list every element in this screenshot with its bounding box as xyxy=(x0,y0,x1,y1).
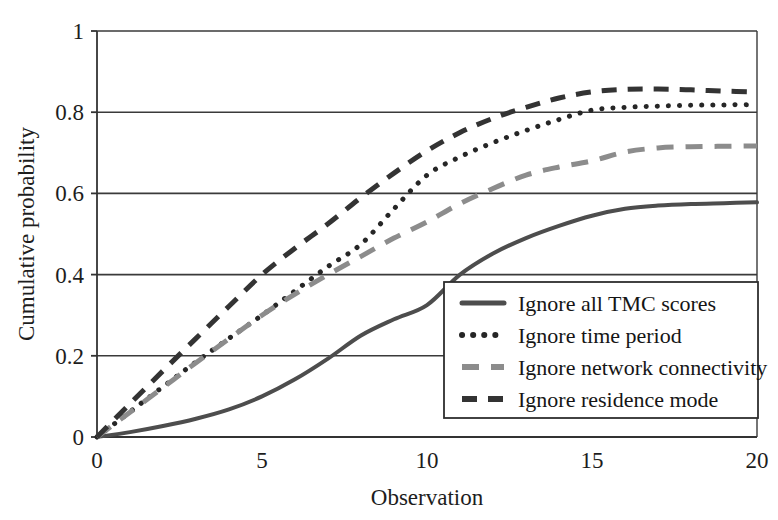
y-axis-title: Cumulative probability xyxy=(14,127,39,341)
x-tick-label-10: 10 xyxy=(416,448,439,473)
y-tick-label-0.8: 0.8 xyxy=(55,100,84,125)
legend-label-2[interactable]: Ignore network connectivity xyxy=(518,355,767,380)
caption-fragment xyxy=(8,506,428,518)
y-tick-label-1: 1 xyxy=(73,19,85,44)
cumulative-probability-chart: 00.20.40.60.81 05101520 ObservationCumul… xyxy=(0,0,778,520)
x-tick-label-0: 0 xyxy=(91,448,103,473)
x-tick-label-15: 15 xyxy=(581,448,604,473)
chart-background xyxy=(0,0,778,520)
x-tick-label-5: 5 xyxy=(256,448,268,473)
x-tick-label-20: 20 xyxy=(746,448,769,473)
y-tick-label-0.6: 0.6 xyxy=(55,181,84,206)
chart-legend[interactable]: Ignore all TMC scoresIgnore time periodI… xyxy=(444,282,767,418)
y-tick-label-0.2: 0.2 xyxy=(55,344,84,369)
legend-label-1[interactable]: Ignore time period xyxy=(518,323,682,348)
legend-label-3[interactable]: Ignore residence mode xyxy=(518,387,718,412)
y-tick-label-0.4: 0.4 xyxy=(55,263,84,288)
figure-container: 00.20.40.60.81 05101520 ObservationCumul… xyxy=(0,0,778,520)
legend-label-0[interactable]: Ignore all TMC scores xyxy=(518,291,716,316)
y-tick-label-0: 0 xyxy=(73,425,85,450)
